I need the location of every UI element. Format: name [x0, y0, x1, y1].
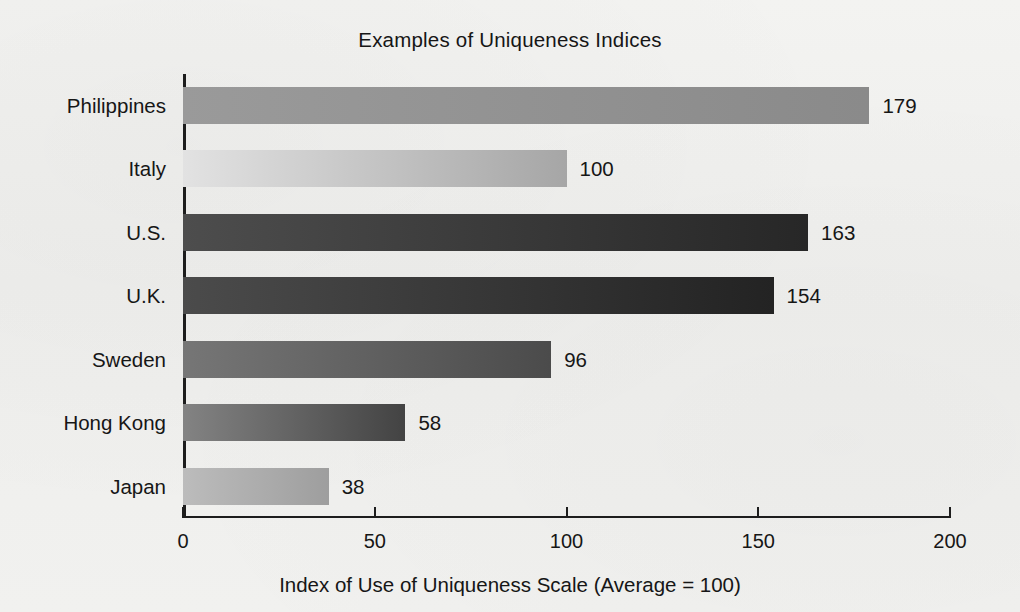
bar-value-label: 154: [774, 277, 821, 314]
x-tick-label: 50: [364, 530, 386, 553]
bar-row[interactable]: U.S.163: [183, 201, 950, 264]
category-label: Philippines: [67, 87, 166, 124]
bar[interactable]: [183, 468, 329, 505]
bar[interactable]: [183, 87, 869, 124]
plot-area: 050100150200 Philippines179Italy100U.S.1…: [183, 74, 950, 518]
bar-value-label: 58: [405, 404, 441, 441]
category-label: Japan: [110, 468, 166, 505]
bar-value-label: 163: [808, 214, 855, 251]
bar-row[interactable]: Japan38: [183, 455, 950, 518]
bar[interactable]: [183, 214, 808, 251]
bar-value-label: 96: [551, 341, 587, 378]
bar-chart-figure: Examples of Uniqueness Indices 050100150…: [0, 0, 1020, 612]
bar-row[interactable]: Sweden96: [183, 328, 950, 391]
x-tick-label: 150: [742, 530, 775, 553]
chart-title: Examples of Uniqueness Indices: [0, 28, 1020, 52]
bar-value-label: 179: [869, 87, 916, 124]
bar-row[interactable]: U.K.154: [183, 264, 950, 327]
bar[interactable]: [183, 150, 567, 187]
bar-row[interactable]: Philippines179: [183, 74, 950, 137]
bar[interactable]: [183, 341, 551, 378]
category-label: U.S.: [126, 214, 166, 251]
bar-row[interactable]: Hong Kong58: [183, 391, 950, 454]
x-tick-label: 0: [177, 530, 188, 553]
bar-row[interactable]: Italy100: [183, 137, 950, 200]
category-label: Hong Kong: [63, 404, 166, 441]
bar[interactable]: [183, 404, 405, 441]
bar-value-label: 100: [567, 150, 614, 187]
x-axis-label: Index of Use of Uniqueness Scale (Averag…: [0, 573, 1020, 597]
category-label: U.K.: [126, 277, 166, 314]
x-tick-label: 100: [550, 530, 583, 553]
bar-value-label: 38: [329, 468, 365, 505]
category-label: Sweden: [92, 341, 166, 378]
category-label: Italy: [128, 150, 166, 187]
x-tick-label: 200: [933, 530, 966, 553]
bar[interactable]: [183, 277, 774, 314]
